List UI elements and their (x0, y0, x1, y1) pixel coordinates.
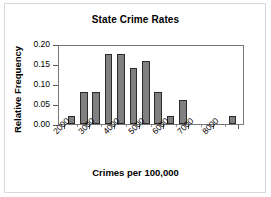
y-axis-tick-label: 0.05 (16, 100, 50, 109)
y-axis-tick-label: 0.15 (16, 60, 50, 69)
histogram-bar (229, 116, 237, 124)
chart-figure: State Crime Rates Relative Frequency 0.0… (0, 0, 271, 197)
chart-title: State Crime Rates (0, 14, 271, 25)
x-axis-label: Crimes per 100,000 (0, 167, 271, 178)
x-axis-minor-tick (225, 125, 226, 127)
y-axis-tick-label: 0.10 (16, 80, 50, 89)
histogram-bars (59, 46, 243, 124)
plot-area (58, 45, 244, 125)
x-axis-tick (238, 125, 239, 129)
histogram-bar (130, 68, 138, 124)
histogram-bar (142, 61, 150, 124)
histogram-bar (105, 54, 113, 124)
y-axis-tick-label: 0.00 (16, 120, 50, 129)
histogram-bar (117, 54, 125, 124)
y-axis-tick-label: 0.20 (16, 40, 50, 49)
